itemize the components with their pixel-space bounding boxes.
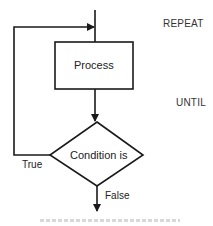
- false-branch-label: False: [105, 190, 129, 202]
- condition-label: Condition is: [70, 149, 127, 161]
- repeat-label: REPEAT: [163, 18, 203, 30]
- cropped-caption: [40, 219, 180, 222]
- true-branch-label: True: [22, 159, 42, 171]
- until-label: UNTIL: [176, 97, 206, 109]
- process-label: Process: [74, 59, 114, 71]
